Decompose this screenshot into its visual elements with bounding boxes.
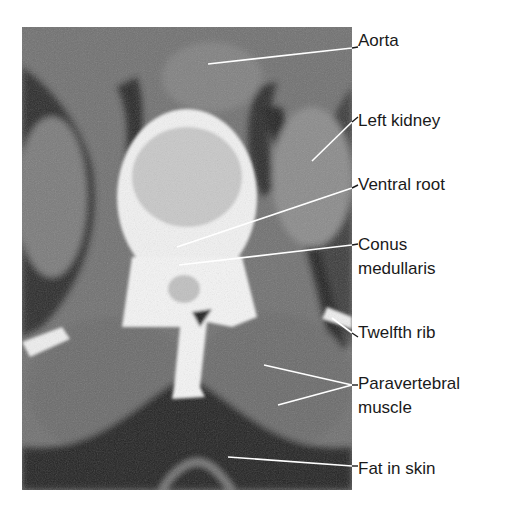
label-paravertebral-muscle-line1: Paravertebral [358,374,460,393]
label-aorta: Aorta [358,31,399,50]
label-twelfth-rib: Twelfth rib [358,323,435,342]
label-conus-medullaris-line2: medullaris [358,259,435,278]
label-paravertebral-muscle-line2: muscle [358,398,412,417]
label-left-kidney: Left kidney [358,111,440,130]
ct-scan-image [22,27,352,490]
label-fat-in-skin: Fat in skin [358,459,435,478]
label-ventral-root: Ventral root [358,175,445,194]
label-conus-medullaris-line1: Conus [358,235,407,254]
